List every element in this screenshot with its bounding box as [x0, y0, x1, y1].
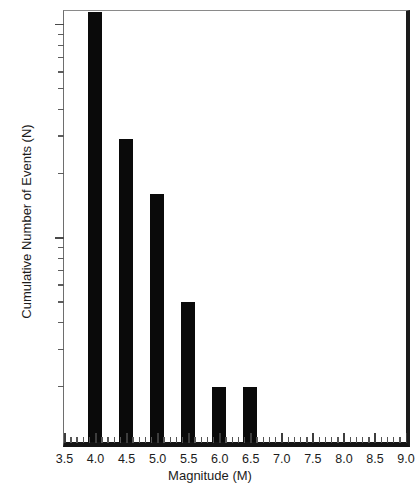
x-axis-major-tick: [219, 433, 221, 443]
y-axis-minor-tick: [58, 71, 64, 72]
y-axis-minor-tick: [58, 45, 64, 46]
x-axis-minor-tick: [399, 437, 400, 443]
x-axis-major-tick: [188, 433, 190, 443]
bars-group: [64, 11, 406, 442]
x-axis-tick-label: 8.0: [335, 452, 352, 466]
y-axis-minor-tick: [58, 109, 64, 110]
y-axis-minor-tick: [58, 284, 64, 285]
x-axis-major-tick: [95, 433, 97, 443]
x-axis-minor-tick: [256, 437, 257, 443]
x-axis-tick-label: 7.5: [304, 452, 321, 466]
x-axis-tick-label: 5.0: [149, 452, 166, 466]
x-axis-minor-tick: [319, 437, 320, 443]
x-axis-minor-tick: [238, 437, 239, 443]
x-axis-minor-tick: [145, 437, 146, 443]
x-axis-minor-tick: [139, 437, 140, 443]
x-axis-tick-label: 3.5: [56, 452, 73, 466]
x-axis-minor-tick: [207, 437, 208, 443]
x-axis-minor-tick: [263, 437, 264, 443]
y-axis-minor-tick: [58, 258, 64, 259]
y-axis-minor-tick: [58, 34, 64, 35]
x-axis-minor-tick: [306, 437, 307, 443]
x-axis-major-tick: [281, 433, 283, 443]
x-axis-major-tick: [343, 433, 345, 443]
x-axis-minor-tick: [350, 437, 351, 443]
bar: [88, 12, 102, 443]
x-axis-major-tick: [157, 433, 159, 443]
x-axis-tick-label: 4.5: [118, 452, 135, 466]
bar: [119, 139, 133, 442]
x-axis-minor-tick: [120, 437, 121, 443]
x-axis-major-tick: [312, 433, 314, 443]
x-axis-minor-tick: [387, 437, 388, 443]
bar: [181, 302, 195, 442]
x-axis-tick-label: 6.0: [211, 452, 228, 466]
x-axis-minor-tick: [70, 437, 71, 443]
x-axis-minor-tick: [325, 437, 326, 443]
y-axis-title: Cumulative Number of Events (N): [19, 102, 34, 342]
x-axis-minor-tick: [225, 437, 226, 443]
x-axis-minor-tick: [381, 437, 382, 443]
x-axis-minor-tick: [201, 437, 202, 443]
x-axis-minor-tick: [368, 437, 369, 443]
y-axis-minor-tick: [58, 88, 64, 89]
y-axis-minor-tick: [58, 386, 64, 387]
y-axis-major-tick: [55, 24, 64, 26]
x-axis-major-tick: [250, 433, 252, 443]
x-axis-minor-tick: [232, 437, 233, 443]
x-axis-minor-tick: [83, 437, 84, 443]
x-axis-minor-tick: [294, 437, 295, 443]
x-axis-minor-tick: [244, 437, 245, 443]
x-axis-minor-tick: [362, 437, 363, 443]
x-axis-tick-label: 4.0: [87, 452, 104, 466]
x-axis-minor-tick: [194, 437, 195, 443]
y-axis-minor-tick: [58, 349, 64, 350]
x-axis-minor-tick: [101, 437, 102, 443]
y-axis-minor-tick: [58, 57, 64, 58]
x-axis-major-tick: [64, 433, 66, 443]
x-axis-minor-tick: [275, 437, 276, 443]
y-axis-minor-tick: [58, 247, 64, 248]
y-axis-minor-tick: [58, 135, 64, 136]
x-axis-minor-tick: [89, 437, 90, 443]
x-axis-minor-tick: [393, 437, 394, 443]
plot-area: [63, 10, 410, 447]
y-axis-minor-tick: [58, 301, 64, 302]
x-axis-minor-tick: [132, 437, 133, 443]
x-axis-minor-tick: [114, 437, 115, 443]
x-axis-minor-tick: [76, 437, 77, 443]
x-axis-minor-tick: [269, 437, 270, 443]
x-axis-minor-tick: [356, 437, 357, 443]
x-axis-minor-tick: [170, 437, 171, 443]
x-axis-minor-tick: [151, 437, 152, 443]
x-axis-minor-tick: [213, 437, 214, 443]
x-axis-minor-tick: [107, 437, 108, 443]
x-axis-minor-tick: [288, 437, 289, 443]
x-axis-minor-tick: [182, 437, 183, 443]
x-axis-minor-tick: [331, 437, 332, 443]
y-axis-major-tick: [55, 237, 64, 239]
chart-figure: 10010 3.54.04.55.05.56.06.57.07.58.08.59…: [0, 0, 420, 488]
x-axis-tick-label: 7.0: [273, 452, 290, 466]
y-axis-minor-tick: [58, 270, 64, 271]
x-axis-major-tick: [406, 433, 408, 443]
x-axis-tick-label: 8.5: [366, 452, 383, 466]
x-axis-minor-tick: [163, 437, 164, 443]
x-axis-tick-label: 5.5: [180, 452, 197, 466]
x-axis-major-tick: [126, 433, 128, 443]
x-axis-tick-label: 6.5: [242, 452, 259, 466]
x-axis-minor-tick: [337, 437, 338, 443]
x-axis-tick-label: 9.0: [397, 452, 414, 466]
y-axis-minor-tick: [58, 322, 64, 323]
x-axis-minor-tick: [176, 437, 177, 443]
y-axis-minor-tick: [58, 173, 64, 174]
x-axis-major-tick: [374, 433, 376, 443]
x-axis-minor-tick: [300, 437, 301, 443]
x-axis-title: Magnitude (M): [0, 468, 420, 483]
bar: [150, 194, 164, 442]
